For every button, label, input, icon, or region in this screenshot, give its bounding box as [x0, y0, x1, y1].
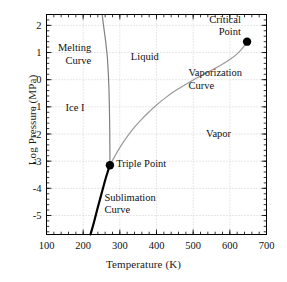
critical-point-label: CriticalPoint — [209, 14, 241, 38]
phase-diagram-plot: 100200300400500600700210-1-2-3-4-5 Melti… — [0, 0, 287, 282]
x-axis-title: Temperature (K) — [0, 258, 287, 270]
vaporization-curve-label: VaporizationCurve — [188, 67, 242, 91]
x-tick-label: 700 — [259, 240, 275, 251]
x-tick-label: 200 — [75, 240, 91, 251]
x-tick-label: 100 — [39, 240, 55, 251]
y-tick-label: -5 — [33, 210, 42, 221]
vapor-label: Vapor — [206, 128, 232, 139]
sublimation-curve-label: SublimationCurve — [104, 192, 156, 216]
ice-i-label: Ice I — [66, 102, 85, 113]
data-points — [106, 37, 252, 169]
x-tick-label: 300 — [112, 240, 128, 251]
x-tick-label: 500 — [185, 240, 201, 251]
annotations: MeltingCurveLiquidIce IVaporizationCurve… — [58, 14, 243, 215]
x-tick-label: 600 — [222, 240, 238, 251]
triple-point-label: Triple Point — [116, 158, 166, 169]
x-tick-label: 400 — [149, 240, 165, 251]
phase-diagram-figure: 100200300400500600700210-1-2-3-4-5 Melti… — [0, 0, 287, 282]
melting-curve-label: MeltingCurve — [58, 42, 92, 66]
liquid-label: Liquid — [131, 51, 160, 62]
y-tick-label: 2 — [36, 20, 41, 31]
y-axis-title: Log Pressure (MPa) — [26, 40, 38, 200]
